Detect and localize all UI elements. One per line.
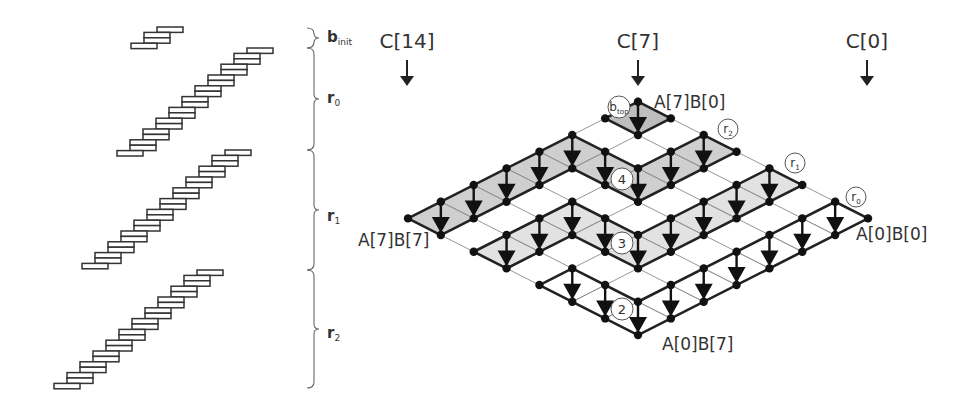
- vertex-dot: [601, 314, 609, 322]
- vertex-dot: [667, 214, 675, 222]
- svg-text:4: 4: [618, 172, 626, 187]
- vertex-dot: [732, 181, 740, 189]
- column-arrow-icon: [860, 60, 874, 86]
- vertex-dot: [700, 164, 708, 172]
- vertex-dot: [502, 164, 510, 172]
- vertex-dot: [634, 164, 642, 172]
- vertex-dot: [601, 214, 609, 222]
- vertex-dot: [634, 198, 642, 206]
- brace-group: binitr0r1r2: [307, 28, 352, 388]
- vertex-dot: [601, 148, 609, 156]
- vertex-dot: [601, 281, 609, 289]
- circle-label-r2: r2: [718, 119, 738, 139]
- lattice-regions: [404, 98, 872, 340]
- circle-label-r1: r1: [785, 153, 805, 173]
- vertex-dot: [667, 148, 675, 156]
- vertex-dot: [732, 248, 740, 256]
- staircase-r1: [82, 150, 251, 269]
- vertex-dot: [568, 231, 576, 239]
- vertex-dot: [667, 281, 675, 289]
- brace-b-init: [307, 28, 319, 48]
- vertex-dot: [535, 181, 543, 189]
- vertex-dot: [732, 281, 740, 289]
- vertex-dot: [831, 198, 839, 206]
- brace-label-r0: r0: [327, 89, 340, 108]
- vertex-dot: [667, 181, 675, 189]
- circle-label-b-top: btop: [608, 96, 630, 118]
- vertex-dot: [535, 248, 543, 256]
- lattice-panel: C[14] C[7] C[0] A[7]B[0] A[7]B[7] A[0]B[…: [358, 29, 927, 354]
- vertex-dot: [601, 181, 609, 189]
- staircase-panel: [54, 27, 273, 389]
- vertex-dot: [700, 264, 708, 272]
- vertex-dot: [765, 198, 773, 206]
- vertex-dot: [535, 281, 543, 289]
- circle-label-3: 3: [611, 232, 633, 254]
- staircase-b-init: [131, 27, 183, 49]
- vertex-dot: [535, 148, 543, 156]
- vertex-dot: [634, 131, 642, 139]
- brace-label-b_init: binit: [327, 28, 352, 47]
- vertex-dot: [568, 264, 576, 272]
- staircase-r0: [117, 48, 273, 156]
- vertex-dot: [765, 231, 773, 239]
- vertex-dot: [667, 248, 675, 256]
- vertex-dot: [568, 131, 576, 139]
- staircase-r2: [54, 270, 223, 389]
- brace-r1: [307, 150, 319, 270]
- vertex-dot: [568, 198, 576, 206]
- circle-label-4: 4: [611, 168, 633, 190]
- vertex-dot: [700, 298, 708, 306]
- vertex-dot: [634, 231, 642, 239]
- vertex-dot: [568, 164, 576, 172]
- vertex-dot: [700, 131, 708, 139]
- vertex-dot: [502, 264, 510, 272]
- vertex-dot: [634, 264, 642, 272]
- vertex-dot: [437, 231, 445, 239]
- vertex-dot: [601, 114, 609, 122]
- vertex-dot: [864, 214, 872, 222]
- brace-label-r2: r2: [327, 324, 340, 343]
- corner-label-top: A[7]B[0]: [654, 92, 725, 112]
- circle-label-2: 2: [611, 298, 633, 320]
- vertex-dot: [437, 198, 445, 206]
- vertex-dot: [798, 248, 806, 256]
- vertex-dot: [667, 114, 675, 122]
- corner-label-left: A[7]B[7]: [358, 230, 429, 250]
- column-arrows: [400, 60, 874, 86]
- corner-label-bottom: A[0]B[7]: [662, 334, 733, 354]
- vertex-dot: [667, 314, 675, 322]
- column-label-c14: C[14]: [379, 29, 434, 53]
- brace-label-r1: r1: [327, 207, 340, 226]
- vertex-dot: [798, 181, 806, 189]
- vertex-dot: [502, 198, 510, 206]
- vertex-dot: [470, 248, 478, 256]
- column-arrow-icon: [400, 60, 414, 86]
- vertex-dot: [470, 181, 478, 189]
- vertex-dot: [535, 214, 543, 222]
- vertex-dot: [404, 214, 412, 222]
- vertex-dot: [831, 231, 839, 239]
- column-labels: C[14] C[7] C[0]: [379, 29, 888, 53]
- vertex-dot: [568, 298, 576, 306]
- vertex-dot: [634, 331, 642, 339]
- column-arrow-icon: [631, 60, 645, 86]
- svg-text:3: 3: [618, 236, 626, 251]
- vertex-dot: [765, 264, 773, 272]
- brace-r0: [307, 48, 319, 150]
- vertex-dot: [732, 214, 740, 222]
- vertex-dot: [502, 231, 510, 239]
- column-label-c0: C[0]: [846, 29, 888, 53]
- vertex-dot: [765, 164, 773, 172]
- corner-label-right: A[0]B[0]: [856, 224, 927, 244]
- vertex-dot: [798, 214, 806, 222]
- column-label-c7: C[7]: [617, 29, 659, 53]
- brace-r2: [307, 270, 319, 388]
- vertex-dot: [700, 198, 708, 206]
- vertex-dot: [634, 298, 642, 306]
- vertex-dot: [601, 248, 609, 256]
- vertex-dot: [634, 98, 642, 106]
- svg-text:2: 2: [618, 302, 626, 317]
- vertex-dot: [732, 148, 740, 156]
- vertex-dot: [700, 231, 708, 239]
